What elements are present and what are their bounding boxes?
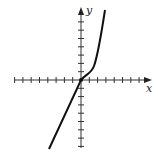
y-axis-arrow-icon [78,7,84,15]
axis-ticks [15,22,140,146]
y-axis-label: y [85,4,93,17]
origin-point [79,78,83,82]
x-axis-label: x [146,82,153,95]
graph: x y [0,0,158,157]
